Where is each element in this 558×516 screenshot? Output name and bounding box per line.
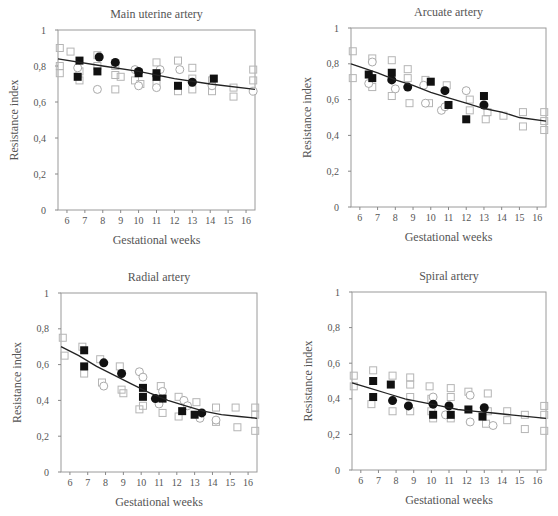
y-tick-label: 0,8: [327, 58, 340, 69]
y-tick-label: 0,6: [328, 358, 341, 369]
data-point: [541, 127, 548, 134]
chart-spiral-artery: Spiral artery00,20,40,60,81Resistance in…: [301, 269, 548, 507]
figure-canvas: Main uterine artery00,20,40,60,81Resista…: [0, 0, 558, 516]
x-tick-label: 13: [479, 475, 489, 486]
data-point: [212, 416, 220, 424]
y-tick-label: 0: [44, 467, 49, 478]
data-point: [111, 58, 120, 67]
x-tick-label: 14: [497, 475, 507, 486]
x-tick-label: 15: [225, 477, 235, 488]
series-open-square: [350, 367, 547, 435]
y-tick-label: 0,8: [34, 61, 47, 72]
data-point: [541, 109, 548, 116]
data-point: [407, 381, 414, 388]
data-point: [61, 352, 68, 359]
data-point: [369, 377, 377, 385]
chart-title: Spiral artery: [419, 269, 479, 283]
data-point: [349, 48, 356, 55]
data-point: [504, 417, 511, 424]
data-point: [541, 402, 548, 409]
chart-main-uterine-artery: Main uterine artery00,20,40,60,81Resista…: [7, 7, 257, 247]
data-point: [447, 394, 454, 401]
data-point: [370, 367, 377, 374]
data-point: [59, 334, 66, 341]
data-point: [521, 411, 528, 418]
x-tick-label: 16: [532, 212, 542, 223]
x-tick-label: 12: [462, 475, 472, 486]
data-point: [112, 86, 119, 93]
x-tick-label: 10: [426, 212, 436, 223]
data-point: [176, 66, 184, 74]
x-tick-label: 15: [223, 215, 233, 226]
data-point: [466, 391, 474, 399]
x-tick-label: 16: [532, 475, 542, 486]
y-tick-label: 1: [334, 23, 339, 34]
x-tick-label: 7: [375, 212, 380, 223]
y-tick-label: 0,2: [34, 169, 47, 180]
data-point: [230, 93, 237, 100]
data-point: [100, 382, 108, 390]
data-point: [232, 404, 239, 411]
x-axis-label: Gestational weeks: [405, 493, 493, 507]
series-open-circle: [365, 58, 471, 114]
x-tick-label: 6: [67, 477, 72, 488]
chart-radial-artery: Radial artery00,20,40,60,81Resistance in…: [10, 270, 259, 509]
data-point: [521, 426, 528, 433]
data-point: [391, 85, 399, 93]
data-point: [159, 387, 167, 395]
x-tick-label: 7: [85, 477, 90, 488]
data-point: [389, 372, 396, 379]
data-point: [388, 57, 395, 64]
data-point: [426, 383, 433, 390]
y-tick-label: 0,4: [328, 393, 341, 404]
data-point: [541, 427, 548, 434]
y-axis-label: Resistance index: [300, 77, 314, 158]
x-tick-label: 16: [241, 215, 251, 226]
data-point: [464, 405, 472, 413]
data-point: [193, 399, 200, 406]
x-tick-label: 13: [187, 215, 197, 226]
data-point: [404, 66, 411, 73]
data-point: [519, 109, 526, 116]
data-point: [174, 82, 182, 90]
x-axis-label: Gestational weeks: [113, 233, 201, 247]
data-point: [466, 96, 473, 103]
data-point: [189, 64, 196, 71]
data-point: [252, 427, 259, 434]
y-tick-label: 0,4: [34, 133, 47, 144]
data-point: [80, 362, 88, 370]
x-tick-label: 9: [411, 212, 416, 223]
chart-title: Main uterine artery: [110, 7, 203, 21]
y-tick-label: 0: [334, 202, 339, 213]
data-point: [479, 413, 487, 421]
data-point: [67, 48, 74, 55]
y-axis: 00,20,40,60,81Resistance index: [300, 23, 351, 213]
data-point: [368, 74, 376, 82]
data-point: [189, 86, 196, 93]
data-point: [389, 408, 396, 415]
y-tick-label: 0,6: [37, 359, 50, 370]
y-axis-label: Resistance index: [10, 342, 24, 423]
data-point: [404, 401, 413, 410]
data-point: [483, 420, 490, 427]
x-tick-label: 11: [152, 215, 162, 226]
data-point: [489, 422, 497, 430]
x-tick-label: 9: [411, 475, 416, 486]
y-tick-label: 0,2: [327, 166, 340, 177]
data-point: [421, 99, 429, 107]
chart-title: Arcuate artery: [414, 5, 483, 19]
x-tick-label: 6: [357, 212, 362, 223]
x-tick-label: 9: [121, 477, 126, 488]
data-point: [93, 67, 101, 75]
y-tick-label: 1: [44, 288, 49, 299]
data-point: [174, 57, 181, 64]
y-axis-label: Resistance index: [7, 80, 21, 161]
data-point: [75, 57, 83, 65]
data-point: [484, 390, 491, 397]
y-axis-label: Resistance index: [301, 341, 315, 422]
x-tick-label: 14: [497, 212, 507, 223]
x-tick-label: 15: [514, 212, 524, 223]
data-point: [117, 73, 124, 80]
chart-arcuate-artery: Arcuate artery00,20,40,60,81Resistance i…: [300, 5, 548, 244]
y-axis: 00,20,40,60,81Resistance index: [301, 287, 352, 476]
